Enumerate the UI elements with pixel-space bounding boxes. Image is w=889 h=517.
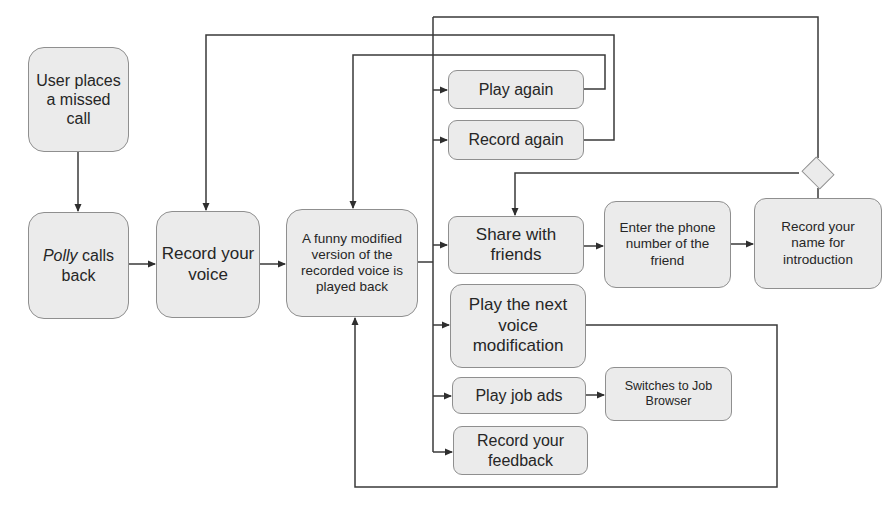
node-label: Record your voice bbox=[161, 244, 255, 285]
node-label: Record again bbox=[468, 130, 563, 149]
node-record-again: Record again bbox=[448, 120, 584, 160]
node-play-again: Play again bbox=[448, 70, 584, 109]
polly-name: Polly bbox=[43, 247, 78, 264]
node-label: A funny modified version of the recorded… bbox=[299, 231, 405, 296]
node-label: Record your name for introduction bbox=[769, 219, 867, 268]
node-polly-calls-back: Polly calls back bbox=[28, 212, 129, 319]
node-label: Play the next voice modification bbox=[465, 295, 571, 356]
decision-diamond bbox=[801, 156, 834, 189]
node-user-places-missed-call: User places a missed call bbox=[28, 47, 129, 152]
node-play-job-ads: Play job ads bbox=[452, 377, 586, 414]
node-play-next-voice-modification: Play the next voice modification bbox=[450, 284, 586, 368]
node-label: Play again bbox=[479, 80, 554, 99]
flowchart: User places a missed call Polly calls ba… bbox=[0, 0, 889, 517]
node-label: User places a missed call bbox=[33, 71, 124, 129]
node-label: Play job ads bbox=[475, 386, 562, 405]
node-record-your-feedback: Record your feedback bbox=[453, 426, 588, 475]
node-label: Enter the phone number of the friend bbox=[615, 220, 720, 269]
node-label: Share with friends bbox=[471, 225, 561, 266]
node-label: Record your feedback bbox=[472, 431, 569, 469]
node-funny-playback: A funny modified version of the recorded… bbox=[286, 209, 418, 317]
node-record-name-introduction: Record your name for introduction bbox=[754, 198, 882, 289]
node-record-your-voice: Record your voice bbox=[156, 211, 260, 318]
node-enter-phone-number: Enter the phone number of the friend bbox=[604, 201, 731, 288]
node-label: Polly calls back bbox=[33, 246, 124, 284]
node-switches-to-job-browser: Switches to Job Browser bbox=[605, 367, 732, 421]
node-share-with-friends: Share with friends bbox=[448, 216, 584, 274]
node-label: Switches to Job Browser bbox=[620, 379, 717, 409]
